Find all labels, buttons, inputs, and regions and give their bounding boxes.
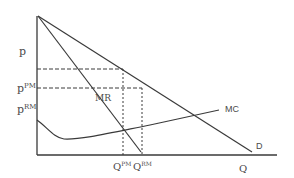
y-axis-label: p (19, 45, 26, 58)
q-rm-label: QRM (133, 160, 152, 172)
marginal-revenue-curve (38, 16, 141, 152)
q-pm-label: QPM (113, 160, 131, 172)
mr-label: MR (95, 93, 111, 103)
demand-label: D (256, 141, 263, 151)
economics-diagram: p pPM pRM MR MC D QPM QRM Q (0, 0, 294, 178)
mc-label: MC (225, 104, 239, 114)
demand-curve (38, 16, 252, 152)
p-rm-label: pRM (17, 103, 37, 116)
x-axis-label: Q (239, 163, 247, 174)
p-pm-label: pPM (17, 82, 36, 95)
